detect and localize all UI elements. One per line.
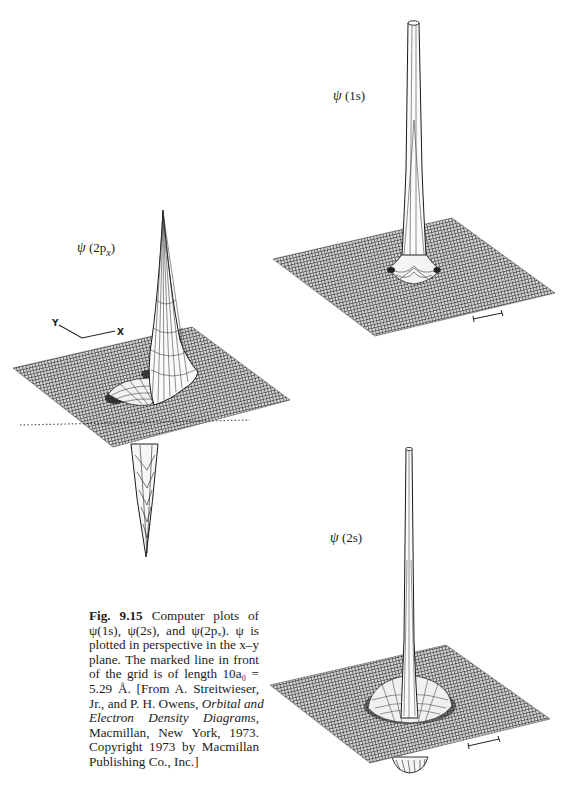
book-title-part: Electron Density Diagrams <box>89 710 256 725</box>
caption-line: Copyright 1973 by Macmillan <box>89 740 259 755</box>
axis-label-x: X <box>117 327 124 337</box>
figure-number: Fig. 9.15 <box>89 608 143 623</box>
axis-label-y: Y <box>51 318 59 328</box>
panel-psi-2px: Y X <box>13 210 290 557</box>
figure-caption: Fig. 9.15 Computer plots of ψ(1s), ψ(2s)… <box>89 609 259 770</box>
peak-cap-1s <box>408 21 419 25</box>
caption-line: Macmillan, New York, 1973. <box>89 726 259 741</box>
caption-line: plotted in perspective in the x–y <box>89 638 259 653</box>
axes-indicator: Y X <box>51 318 124 338</box>
panel-psi-2s <box>270 447 550 773</box>
caption-line: plane. The marked line in front <box>89 653 259 668</box>
peak-cap-2s <box>406 447 413 450</box>
figure-artwork: Y X <box>0 0 571 788</box>
caption-line: 5.29 Å. [From A. Streitwieser, <box>89 682 259 697</box>
peak-spike-2s <box>401 449 418 718</box>
panel-psi-1s <box>273 21 555 336</box>
caption-line: Jr., and P. H. Owens, Orbital and <box>89 697 259 712</box>
caption-line: Publishing Co., Inc.] <box>89 755 259 770</box>
peak-spike-1s <box>402 23 426 255</box>
caption-line: Fig. 9.15 Computer plots of <box>89 609 259 624</box>
book-title-part: Orbital and <box>202 696 264 711</box>
label-psi-2s: ψ (2s) <box>330 530 362 546</box>
caption-line: Electron Density Diagrams, <box>89 711 259 726</box>
caption-line: of the grid is of length 10a₀ = <box>89 667 259 682</box>
label-psi-2px: ψ (2px) <box>77 240 115 258</box>
negative-ring-2s <box>392 757 428 773</box>
label-psi-1s: ψ (1s) <box>333 88 365 104</box>
caption-line: ψ(1s), ψ(2s), and ψ(2pₓ). ψ is <box>89 624 259 639</box>
